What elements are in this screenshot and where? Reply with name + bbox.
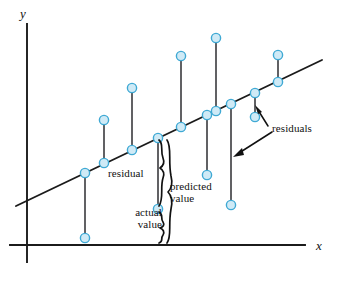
label-residual: residual — [108, 168, 144, 180]
predicted-point — [153, 133, 162, 142]
regression-residuals-figure: y x — [0, 0, 347, 284]
scatter-plot-canvas: y x — [0, 0, 347, 284]
label-actual-value: actual value — [114, 207, 162, 230]
predicted-point — [127, 145, 136, 154]
residuals-arrow-lower-line — [239, 132, 272, 153]
data-point — [273, 50, 282, 59]
residuals-arrow-lower-head — [233, 148, 244, 157]
label-residuals: residuals — [272, 123, 312, 135]
data-point — [80, 233, 89, 242]
brace-residual — [159, 140, 164, 206]
data-point — [176, 51, 185, 60]
data-point — [202, 170, 211, 179]
predicted-point — [250, 88, 259, 97]
data-point — [127, 83, 136, 92]
data-point — [211, 33, 220, 42]
predicted-point — [176, 122, 185, 131]
label-predicted-value: predicted value — [170, 181, 212, 204]
predicted-point — [202, 110, 211, 119]
predicted-point — [80, 168, 89, 177]
data-point — [99, 115, 108, 124]
data-point — [226, 200, 235, 209]
x-axis-label: x — [315, 238, 322, 253]
predicted-point — [273, 77, 282, 86]
y-axis-label: y — [18, 6, 26, 21]
predicted-point — [226, 99, 235, 108]
predicted-point — [211, 106, 220, 115]
